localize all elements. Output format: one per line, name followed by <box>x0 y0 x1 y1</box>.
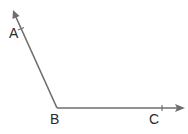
angle-diagram: A B C <box>0 0 188 134</box>
label-a: A <box>9 25 19 41</box>
label-b: B <box>50 111 59 127</box>
label-c: C <box>149 111 159 127</box>
